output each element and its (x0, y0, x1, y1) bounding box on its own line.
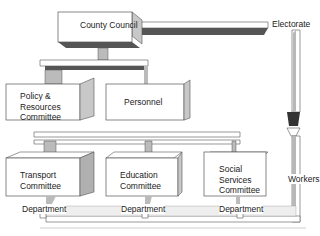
policy-resources-label: Policy & Resources Committee (20, 91, 61, 123)
education-label: Education Committee (120, 170, 161, 191)
department-label-education: Department (121, 204, 165, 214)
social-services-label: Social Services Committee (219, 164, 260, 196)
transport-label: Transport Committee (20, 170, 61, 191)
personnel-label: Personnel (124, 97, 162, 108)
personnel-box (106, 66, 190, 120)
workers-label: Workers (288, 174, 320, 184)
council-connector (40, 48, 148, 70)
electorate-label: Electorate (272, 19, 310, 29)
right-vertical-flow (287, 30, 300, 222)
department-label-transport: Department (22, 204, 66, 214)
bottom-return-flow (40, 206, 306, 228)
department-label-social: Department (219, 204, 263, 214)
electorate-flow (130, 20, 268, 37)
county-council-label: County Council (80, 20, 138, 31)
